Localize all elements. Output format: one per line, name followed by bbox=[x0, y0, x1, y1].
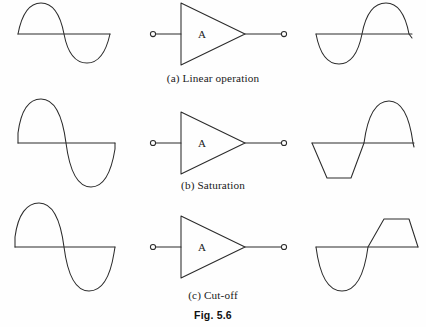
row-saturation-input-waveform bbox=[18, 99, 115, 187]
amplifier-output-terminal bbox=[281, 31, 286, 36]
caption-cutoff: (c) Cut-off bbox=[0, 289, 426, 301]
amplifier-triangle bbox=[181, 112, 245, 174]
amplifier-output-terminal bbox=[281, 244, 286, 249]
row-saturation-output-waveform bbox=[312, 101, 414, 178]
input-sine-linear bbox=[18, 3, 110, 63]
amplifier-gain-label: A bbox=[198, 241, 206, 253]
amplifier-input-terminal bbox=[150, 140, 155, 145]
amplifier-input-terminal bbox=[150, 244, 155, 249]
amplifier-output-terminal bbox=[281, 140, 286, 145]
caption-linear-operation: (a) Linear operation bbox=[0, 72, 426, 84]
output-clipped-positive-cutoff bbox=[316, 219, 418, 291]
amplifier-cutoff: A bbox=[150, 216, 286, 278]
amplifier-triangle bbox=[181, 216, 245, 278]
amplifier-triangle bbox=[181, 3, 245, 65]
amplifier-input-terminal bbox=[150, 31, 155, 36]
amplifier-saturation: A bbox=[150, 112, 286, 174]
figure-drawing: A A bbox=[0, 0, 426, 327]
caption-saturation: (b) Saturation bbox=[0, 179, 426, 191]
row-linear-output-waveform bbox=[316, 3, 412, 64]
amplifier-gain-label: A bbox=[198, 137, 206, 149]
row-linear-input-waveform bbox=[18, 3, 110, 63]
amplifier-gain-label: A bbox=[198, 28, 206, 40]
row-cutoff-input-waveform bbox=[15, 203, 115, 291]
figure-number-label: Fig. 5.6 bbox=[0, 309, 426, 321]
figure-container: A A bbox=[0, 0, 426, 327]
row-cutoff-output-waveform bbox=[316, 219, 418, 291]
amplifier-linear: A bbox=[150, 3, 286, 65]
output-clipped-negative-saturation bbox=[312, 101, 414, 178]
